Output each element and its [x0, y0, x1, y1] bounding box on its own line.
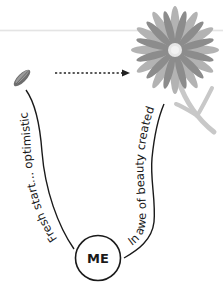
left-path-label: Fresh start... optimistic	[16, 111, 60, 245]
journey-diagram: Fresh start... optimistic In awe of beau…	[0, 0, 223, 293]
flower-icon	[131, 6, 219, 94]
seed-icon	[11, 67, 32, 88]
dotted-arrow	[55, 70, 130, 77]
me-label: ME	[87, 251, 109, 266]
me-node[interactable]: ME	[76, 236, 121, 281]
stem-icon	[176, 80, 214, 132]
